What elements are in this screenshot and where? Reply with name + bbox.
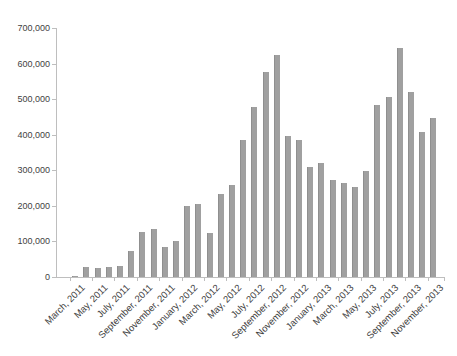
bar: [363, 171, 369, 277]
bar: [95, 268, 101, 277]
bar: [397, 48, 403, 277]
bar: [285, 136, 291, 277]
y-axis-tick-label: 200,000: [17, 201, 50, 211]
y-axis-tick-label: 100,000: [17, 236, 50, 246]
bar: [263, 72, 269, 277]
x-axis-tick: [271, 278, 272, 281]
bar: [386, 97, 392, 277]
bar-chart: 0100,000200,000300,000400,000500,000600,…: [0, 0, 457, 356]
bar: [139, 232, 145, 277]
x-axis-tick: [114, 278, 115, 281]
x-axis-tick: [159, 278, 160, 281]
y-axis-tick: [52, 135, 56, 136]
x-axis-tick: [204, 278, 205, 281]
bar: [274, 55, 280, 277]
bar: [207, 233, 213, 277]
y-axis-tick: [52, 28, 56, 29]
bar: [162, 247, 168, 277]
bar: [419, 132, 425, 277]
bar: [330, 180, 336, 277]
bar: [151, 229, 157, 277]
x-axis-tick: [405, 278, 406, 281]
x-axis-tick: [294, 278, 295, 281]
bar: [229, 185, 235, 277]
x-axis-tick: [92, 278, 93, 281]
x-axis-tick: [182, 278, 183, 281]
bar: [83, 267, 89, 277]
x-axis-tick: [316, 278, 317, 281]
x-axis-tick: [361, 278, 362, 281]
bar: [195, 204, 201, 277]
y-axis-tick: [52, 64, 56, 65]
bar: [218, 194, 224, 277]
y-axis-tick-label: 300,000: [17, 165, 50, 175]
y-axis-tick-label: 500,000: [17, 94, 50, 104]
y-axis-tick: [52, 206, 56, 207]
bar: [117, 266, 123, 277]
bar: [106, 267, 112, 277]
bar: [430, 118, 436, 277]
bar: [408, 92, 414, 277]
x-axis-tick: [70, 278, 71, 281]
bar: [173, 241, 179, 277]
x-axis-tick: [249, 278, 250, 281]
y-axis-tick-label: 400,000: [17, 130, 50, 140]
bar: [72, 276, 78, 277]
x-axis-tick: [444, 278, 445, 281]
bar: [307, 167, 313, 277]
y-axis-tick-label: 600,000: [17, 59, 50, 69]
bar: [341, 183, 347, 277]
y-axis-line: [56, 28, 57, 277]
bar: [318, 163, 324, 277]
bar: [296, 140, 302, 277]
x-axis-tick: [338, 278, 339, 281]
bar: [184, 206, 190, 277]
bar: [240, 140, 246, 277]
bar: [352, 187, 358, 277]
bar: [251, 107, 257, 277]
y-axis-tick: [52, 99, 56, 100]
y-axis-tick: [52, 241, 56, 242]
x-axis-tick: [137, 278, 138, 281]
y-axis-tick-label: 700,000: [17, 23, 50, 33]
bar: [374, 105, 380, 277]
y-axis-tick-label: 0: [45, 272, 50, 282]
y-axis-tick: [52, 277, 56, 278]
y-axis-tick: [52, 170, 56, 171]
x-axis-tick: [226, 278, 227, 281]
x-axis-tick: [383, 278, 384, 281]
bar: [128, 251, 134, 277]
x-axis-tick: [428, 278, 429, 281]
